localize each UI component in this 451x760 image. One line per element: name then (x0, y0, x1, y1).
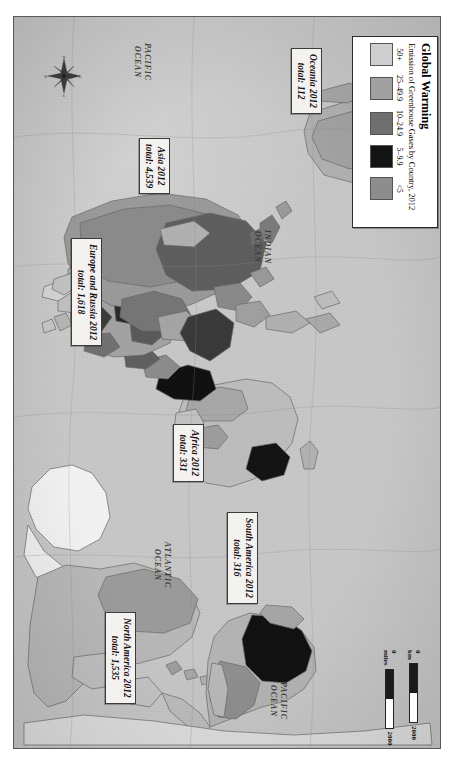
callout-oceania: Oceania 2012 total: 112 (291, 48, 322, 114)
svg-text:S: S (63, 93, 65, 97)
legend-swatch-25-49 (370, 77, 393, 100)
compass-rose: N S E W (44, 55, 84, 97)
callout-europe-russia: Europe and Russia 2012 total: 1,618 (71, 238, 102, 346)
legend-swatch-under5 (370, 177, 393, 200)
legend-item-25-49: 25–49.9 (370, 75, 404, 101)
legend-item-5-9: 5–9.9 (370, 145, 404, 168)
scale-bar-inner-rotated: 0 km 2000 0 miles 2000 (372, 648, 428, 740)
ocean-label-pacific-north: PACIFICOCEAN (132, 32, 152, 92)
legend-swatch-10-24 (370, 112, 393, 135)
scale-miles-end: 2000 (386, 732, 394, 746)
ocean-label-atlantic: ATLANTICOCEAN (152, 534, 172, 596)
ocean-label-pacific-south: PACIFICOCEAN (268, 672, 288, 730)
scale-km-bar (410, 663, 419, 723)
scale-km-end: 2000 (410, 726, 418, 740)
callout-north-america: North America 2012 total: 1,535 (105, 612, 136, 704)
legend-subtitle: Emission of Greenhouse Gases by Country,… (407, 43, 417, 210)
page-root: N S E W PACIFICOCEAN INDIANOCEAN ATLANTI… (0, 0, 451, 760)
scale-bar: 0 km 2000 0 miles 2000 (372, 648, 428, 740)
legend-label-50plus: 50+ (395, 48, 404, 61)
callout-south-america: South America 2012 total: 316 (227, 512, 258, 604)
legend-swatch-50plus (370, 43, 393, 66)
legend-label-25-49: 25–49.9 (395, 75, 404, 101)
legend-inner-rotated: Global Warming Emission of Greenhouse Ga… (353, 37, 437, 227)
callout-africa: Africa 2012 total: 331 (173, 424, 204, 482)
svg-text:E: E (79, 74, 82, 79)
scale-km-start: 0 km (406, 650, 422, 660)
legend-label-under5: <5 (395, 184, 404, 193)
svg-text:N: N (63, 55, 66, 60)
scale-miles-bar (386, 669, 395, 729)
legend-label-5-9: 5–9.9 (395, 148, 404, 166)
legend-title: Global Warming (418, 43, 433, 129)
legend-item-under5: <5 (370, 177, 404, 200)
legend-item-50plus: 50+ (370, 43, 404, 66)
svg-text:W: W (44, 74, 48, 79)
legend-item-10-24: 10–24.9 (370, 110, 404, 136)
ocean-label-indian: INDIANOCEAN (252, 218, 272, 276)
scale-miles-start: 0 miles (382, 650, 398, 666)
legend-swatch-list: 50+ 25–49.9 10–24.9 5–9.9 <5 (370, 43, 404, 200)
map-legend: Global Warming Emission of Greenhouse Ga… (352, 36, 438, 228)
legend-swatch-5-9 (370, 145, 393, 168)
callout-asia: Asia 2012 total: 4,539 (139, 138, 170, 194)
legend-label-10-24: 10–24.9 (395, 110, 404, 136)
